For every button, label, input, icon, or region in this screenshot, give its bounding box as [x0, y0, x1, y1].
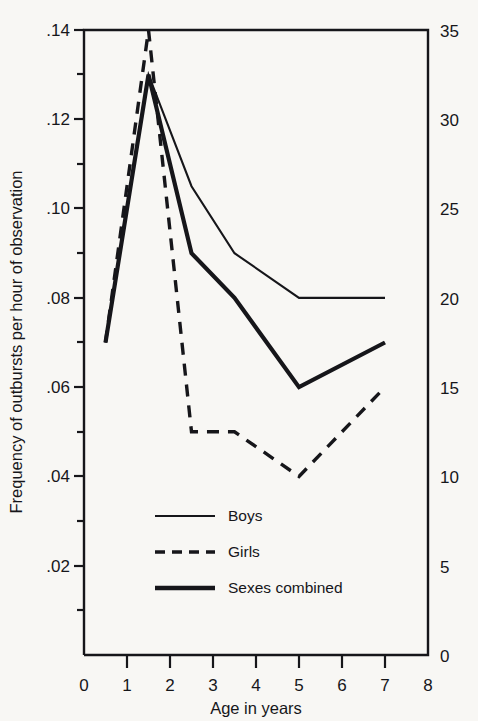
y-tick-label: .14: [46, 21, 70, 40]
legend-label-sexes-combined: Sexes combined: [228, 579, 343, 596]
series-line-girls: [106, 30, 386, 476]
y-tick-label: .12: [46, 110, 70, 129]
y-right-tick-label: 35: [440, 22, 459, 41]
x-tick-label: 2: [165, 676, 174, 695]
y-right-tick-label: 10: [440, 468, 459, 487]
y-right-tick-label: 30: [440, 111, 459, 130]
y-right-tick-label: 15: [440, 379, 459, 398]
chart-page: .14 .12 .10 .08 .06 .04 .02 35 30 25 20 …: [0, 0, 478, 721]
x-tick-label: 0: [79, 676, 88, 695]
x-tick-label: 7: [380, 676, 389, 695]
x-tick-label: 4: [251, 676, 260, 695]
y-right-tick-label: 25: [440, 200, 459, 219]
series-group: [106, 30, 386, 476]
y-tick-label: .06: [46, 378, 70, 397]
x-tick-label: 1: [122, 676, 131, 695]
y-tick-label: .02: [46, 557, 70, 576]
legend-label-girls: Girls: [228, 543, 260, 560]
y-tick-label: .08: [46, 289, 70, 308]
x-axis-labels: 0 1 2 3 4 5 6 7 8: [79, 676, 432, 695]
chart-legend: Boys Girls Sexes combined: [155, 507, 343, 596]
legend-label-boys: Boys: [228, 507, 263, 524]
x-tick-label: 8: [423, 676, 432, 695]
x-tick-label: 6: [337, 676, 346, 695]
series-line-sexes-combined: [106, 75, 386, 388]
y-right-tick-label: 5: [440, 558, 449, 577]
y-tick-label: .10: [46, 199, 70, 218]
y-axis-right-labels: 35 30 25 20 15 10 5 0: [440, 22, 459, 666]
x-tick-label: 5: [294, 676, 303, 695]
y-tick-label: .04: [46, 467, 70, 486]
y-right-tick-label: 0: [440, 647, 449, 666]
y-axis-left-ticks: [74, 30, 84, 566]
y-right-tick-label: 20: [440, 290, 459, 309]
line-chart: .14 .12 .10 .08 .06 .04 .02 35 30 25 20 …: [0, 0, 478, 721]
x-axis-title: Age in years: [210, 699, 302, 717]
series-line-boys: [106, 75, 386, 343]
x-axis-ticks: [127, 655, 385, 668]
y-axis-title: Frequency of outbursts per hour of obser…: [7, 170, 25, 513]
y-axis-left-labels: .14 .12 .10 .08 .06 .04 .02: [46, 21, 70, 576]
x-tick-label: 3: [208, 676, 217, 695]
